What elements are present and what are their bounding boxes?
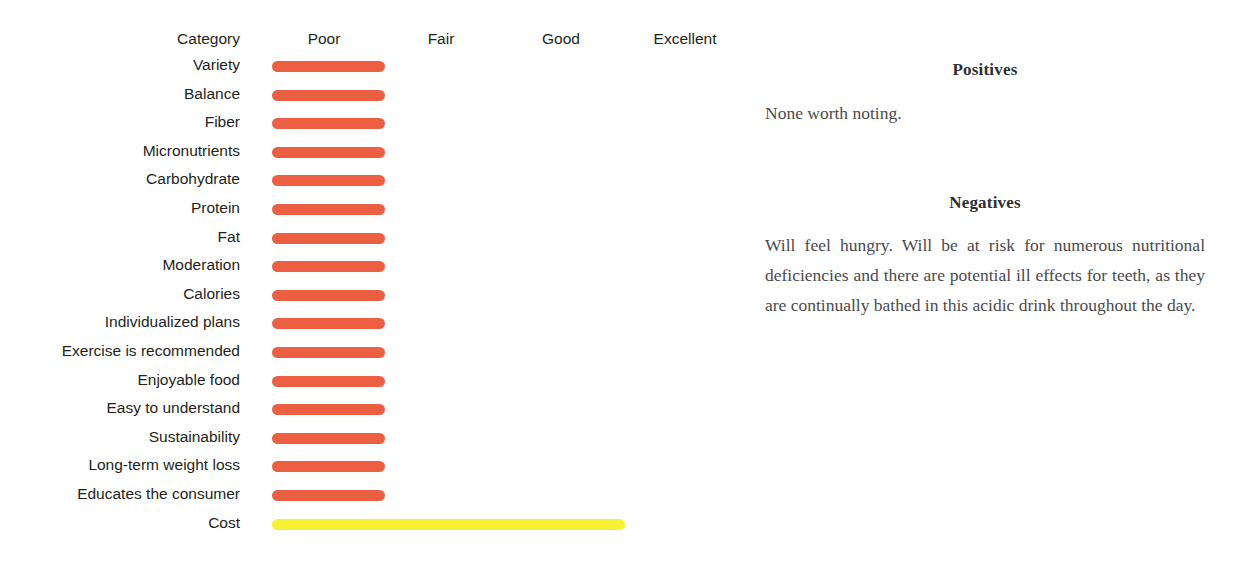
row-label: Individualized plans — [105, 313, 240, 331]
chart-row: Educates the consumer — [0, 484, 745, 513]
row-label: Calories — [183, 285, 240, 303]
row-label: Exercise is recommended — [62, 342, 240, 360]
chart-rows: VarietyBalanceFiberMicronutrientsCarbohy… — [0, 55, 745, 541]
column-header-poor: Poor — [308, 30, 341, 48]
chart-row: Easy to understand — [0, 398, 745, 427]
chart-row: Fiber — [0, 112, 745, 141]
rating-bar — [272, 261, 385, 272]
rating-bar — [272, 433, 385, 444]
rating-bar — [272, 90, 385, 101]
chart-row: Long-term weight loss — [0, 455, 745, 484]
negatives-heading: Negatives — [765, 193, 1205, 213]
commentary-panel: Positives None worth noting. Negatives W… — [765, 0, 1205, 567]
row-label: Cost — [208, 514, 240, 532]
row-label: Long-term weight loss — [88, 456, 240, 474]
rating-bar — [272, 290, 385, 301]
row-label: Fat — [218, 228, 240, 246]
rating-bar — [272, 461, 385, 472]
rating-bar — [272, 519, 625, 530]
row-label: Enjoyable food — [137, 371, 240, 389]
row-label: Sustainability — [149, 428, 240, 446]
row-label: Easy to understand — [106, 399, 240, 417]
row-label: Balance — [184, 85, 240, 103]
row-label: Carbohydrate — [146, 170, 240, 188]
column-header-good: Good — [542, 30, 580, 48]
column-header-category: Category — [177, 30, 240, 48]
column-header-excellent: Excellent — [654, 30, 717, 48]
chart-row: Calories — [0, 284, 745, 313]
row-label: Micronutrients — [143, 142, 240, 160]
negatives-body: Will feel hungry. Will be at risk for nu… — [765, 230, 1205, 320]
chart-row: Balance — [0, 84, 745, 113]
diet-rating-chart: Category PoorFairGoodExcellent VarietyBa… — [0, 0, 745, 567]
rating-bar — [272, 490, 385, 501]
rating-bar — [272, 347, 385, 358]
chart-row: Exercise is recommended — [0, 341, 745, 370]
positives-body: None worth noting. — [765, 98, 1205, 128]
chart-row: Moderation — [0, 255, 745, 284]
row-label: Variety — [193, 56, 240, 74]
rating-bar — [272, 204, 385, 215]
chart-row: Sustainability — [0, 427, 745, 456]
rating-bar — [272, 318, 385, 329]
chart-row: Cost — [0, 513, 745, 542]
row-label: Protein — [191, 199, 240, 217]
chart-row: Variety — [0, 55, 745, 84]
row-label: Fiber — [205, 113, 240, 131]
column-header-fair: Fair — [428, 30, 455, 48]
rating-bar — [272, 404, 385, 415]
chart-header-row: Category PoorFairGoodExcellent — [0, 30, 745, 52]
rating-bar — [272, 147, 385, 158]
rating-bar — [272, 175, 385, 186]
positives-heading: Positives — [765, 60, 1205, 80]
chart-row: Micronutrients — [0, 141, 745, 170]
chart-row: Individualized plans — [0, 312, 745, 341]
rating-bar — [272, 61, 385, 72]
rating-bar — [272, 118, 385, 129]
chart-row: Enjoyable food — [0, 370, 745, 399]
row-label: Moderation — [162, 256, 240, 274]
chart-row: Protein — [0, 198, 745, 227]
chart-row: Carbohydrate — [0, 169, 745, 198]
rating-bar — [272, 233, 385, 244]
row-label: Educates the consumer — [77, 485, 240, 503]
rating-bar — [272, 376, 385, 387]
chart-row: Fat — [0, 227, 745, 256]
